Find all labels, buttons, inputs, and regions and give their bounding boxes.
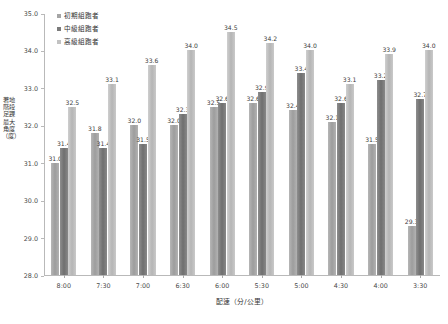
x-tick-mark xyxy=(262,275,263,278)
bar-value-label: 34.2 xyxy=(257,35,283,42)
bar-group: 29.332.734.0 xyxy=(408,13,433,275)
x-tick-mark xyxy=(420,275,421,278)
y-tick-label: 35.0 xyxy=(10,10,38,18)
x-axis-title: 配速（分/公里） xyxy=(44,296,440,306)
bar[interactable]: 31.8 xyxy=(91,133,99,275)
x-tick-label: 5:30 xyxy=(242,282,282,290)
bar-value-label: 34.5 xyxy=(218,24,244,31)
bar-value-label: 31.8 xyxy=(82,125,108,132)
y-tick-label: 33.0 xyxy=(10,85,38,93)
bar-value-label: 34.0 xyxy=(178,42,204,49)
y-tick-mark xyxy=(41,276,44,277)
y-tick-mark xyxy=(41,238,44,239)
bar-group: 32.032.334.0 xyxy=(170,13,195,275)
x-tick-label: 4:00 xyxy=(361,282,401,290)
bar[interactable]: 31.5 xyxy=(139,144,147,275)
bar[interactable]: 32.9 xyxy=(258,92,266,275)
chart-page: 著地階段足踝最大角度（度） 初期組跑者中級組跑者高級組跑者 28.029.030… xyxy=(0,0,448,324)
bar[interactable]: 31.4 xyxy=(60,148,68,275)
bar[interactable]: 34.0 xyxy=(306,50,314,275)
x-tick-mark xyxy=(301,275,302,278)
bar-group: 32.433.434.0 xyxy=(289,13,314,275)
bar[interactable]: 32.6 xyxy=(218,103,226,275)
bar[interactable]: 33.9 xyxy=(385,54,393,275)
bar[interactable]: 34.0 xyxy=(425,50,433,275)
y-tick-label: 29.0 xyxy=(10,235,38,243)
y-tick-label: 28.0 xyxy=(10,272,38,280)
x-tick-mark xyxy=(381,275,382,278)
y-tick: 29.0 xyxy=(10,235,48,243)
x-tick-label: 7:00 xyxy=(123,282,163,290)
x-tick-mark xyxy=(103,275,104,278)
bar[interactable]: 31.4 xyxy=(99,148,107,275)
bar[interactable]: 32.4 xyxy=(289,110,297,275)
bar-group: 31.533.233.9 xyxy=(368,13,393,275)
y-tick-mark xyxy=(41,163,44,164)
bar-group: 32.132.633.1 xyxy=(328,13,353,275)
x-tick-label: 8:00 xyxy=(44,282,84,290)
bar[interactable]: 32.7 xyxy=(416,99,424,275)
y-tick-label: 34.0 xyxy=(10,47,38,55)
bar-value-label: 32.0 xyxy=(121,117,147,124)
x-tick-label: 3:30 xyxy=(400,282,440,290)
bar[interactable]: 33.1 xyxy=(108,84,116,275)
bar[interactable]: 33.2 xyxy=(377,80,385,275)
y-tick-mark xyxy=(41,51,44,52)
bar[interactable]: 32.5 xyxy=(68,107,76,275)
bar[interactable]: 32.1 xyxy=(328,122,336,275)
x-tick-mark xyxy=(341,275,342,278)
y-tick-mark xyxy=(41,88,44,89)
bar[interactable]: 32.6 xyxy=(337,103,345,275)
x-tick-mark xyxy=(183,275,184,278)
bar-value-label: 33.9 xyxy=(376,46,402,53)
bar-value-label: 34.0 xyxy=(297,42,323,49)
y-tick-label: 32.0 xyxy=(10,122,38,130)
x-tick-label: 6:00 xyxy=(202,282,242,290)
x-tick-mark xyxy=(143,275,144,278)
bar-group: 31.031.432.5 xyxy=(51,13,76,275)
y-tick: 33.0 xyxy=(10,85,48,93)
bar[interactable]: 32.0 xyxy=(170,125,178,275)
y-tick: 35.0 xyxy=(10,10,48,18)
y-axis-title: 著地階段足踝最大角度（度） xyxy=(2,96,16,139)
plot-area: 28.029.030.031.032.033.034.035.0 8:007:3… xyxy=(44,14,440,276)
bar[interactable]: 32.6 xyxy=(249,103,257,275)
bar[interactable]: 34.5 xyxy=(227,32,235,275)
y-tick-label: 30.0 xyxy=(10,197,38,205)
bar[interactable]: 34.2 xyxy=(266,43,274,275)
x-tick-label: 5:00 xyxy=(281,282,321,290)
bar[interactable]: 34.0 xyxy=(187,50,195,275)
bar-group: 32.632.934.2 xyxy=(249,13,274,275)
bar[interactable]: 33.1 xyxy=(346,84,354,275)
y-tick-mark xyxy=(41,126,44,127)
y-tick-mark xyxy=(41,14,44,15)
bar-group: 31.831.433.1 xyxy=(91,13,116,275)
bar[interactable]: 32.0 xyxy=(130,125,138,275)
y-tick-label: 31.0 xyxy=(10,160,38,168)
x-tick-mark xyxy=(222,275,223,278)
x-tick-label: 6:30 xyxy=(163,282,203,290)
bar-value-label: 33.1 xyxy=(337,76,363,83)
bar[interactable]: 29.3 xyxy=(408,226,416,275)
bar-value-label: 32.5 xyxy=(59,99,85,106)
bar-group: 32.532.634.5 xyxy=(210,13,235,275)
y-tick: 32.0 xyxy=(10,122,48,130)
x-tick-label: 4:30 xyxy=(321,282,361,290)
y-tick: 30.0 xyxy=(10,197,48,205)
bar-value-label: 33.6 xyxy=(139,57,165,64)
bar[interactable]: 33.6 xyxy=(148,65,156,275)
y-tick: 28.0 xyxy=(10,272,48,280)
bar-group: 32.031.533.6 xyxy=(130,13,155,275)
bar[interactable]: 31.5 xyxy=(368,144,376,275)
bar-value-label: 33.1 xyxy=(99,76,125,83)
bar[interactable]: 31.0 xyxy=(51,163,59,275)
bar-value-label: 34.0 xyxy=(416,42,442,49)
x-tick-mark xyxy=(64,275,65,278)
bar[interactable]: 32.3 xyxy=(179,114,187,275)
y-tick: 34.0 xyxy=(10,47,48,55)
bar[interactable]: 33.4 xyxy=(297,73,305,275)
bar[interactable]: 32.5 xyxy=(210,107,218,275)
y-tick-mark xyxy=(41,201,44,202)
x-tick-label: 7:30 xyxy=(83,282,123,290)
